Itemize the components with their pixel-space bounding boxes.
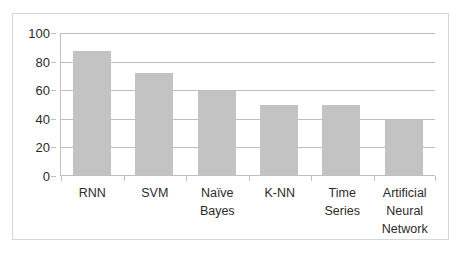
y-axis-tick-label: 60 [36,84,50,97]
x-axis-category-label: SVM [124,184,187,238]
y-axis-tick-label: 0 [43,170,50,183]
y-axis-tick-mark [51,147,56,148]
y-axis-tick-labels: 100 80 60 40 20 0 [13,33,56,176]
y-axis-tick-label: 20 [36,141,50,154]
bar-slot [61,33,123,175]
bar-slot [123,33,185,175]
x-axis-category-label: Artificial Neural Network [374,184,437,238]
y-axis-tick-label: 80 [36,55,50,68]
bar[interactable] [260,105,298,175]
x-axis-category-labels: RNN SVM Naïve Bayes K-NN Time Series Art… [61,184,436,238]
chart-frame: 100 80 60 40 20 0 [12,13,449,240]
y-axis-tick-mark [51,119,56,120]
x-axis-tick-mark [124,176,125,181]
x-axis-tick-mark [249,176,250,181]
x-axis-tick-marks [61,176,436,182]
bar[interactable] [322,105,360,175]
x-axis-tick-mark [374,176,375,181]
bar[interactable] [198,91,236,175]
y-axis-tick-mark [51,176,56,177]
x-axis-tick-mark [61,176,62,181]
x-axis-category-label: Time Series [311,184,374,238]
y-axis-tick-mark [51,62,56,63]
bar[interactable] [385,120,423,175]
bar-slot [186,33,248,175]
bar-series [61,33,435,175]
x-axis-category-label: RNN [61,184,124,238]
y-axis-tick-label: 40 [36,112,50,125]
bar-slot [310,33,372,175]
y-axis-tick-mark [51,33,56,34]
y-axis-tick-mark [51,90,56,91]
bar[interactable] [73,51,111,175]
bar[interactable] [135,73,173,175]
x-axis-tick-mark [435,176,436,181]
x-axis-tick-mark [186,176,187,181]
plot-area [60,33,435,176]
x-axis-category-label: K-NN [249,184,312,238]
bar-slot [373,33,435,175]
x-axis-category-label: Naïve Bayes [186,184,249,238]
x-axis-tick-mark [311,176,312,181]
y-axis-tick-label: 100 [28,27,50,40]
bar-slot [248,33,310,175]
